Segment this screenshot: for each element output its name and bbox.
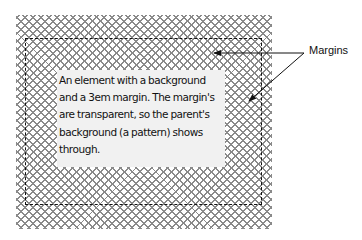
arrow-to-right-margin-icon — [249, 53, 304, 101]
callout-arrows — [0, 0, 362, 240]
margins-callout-label: Margins — [309, 44, 348, 56]
